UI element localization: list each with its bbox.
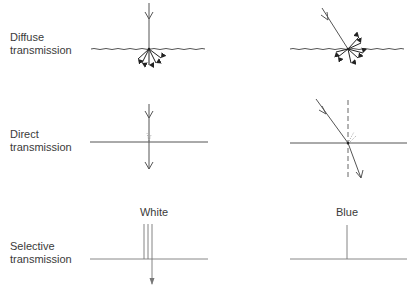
diffuse-normal-incidence bbox=[91, 3, 205, 65]
transmitted-arrowhead-icon bbox=[150, 278, 155, 285]
transmission-diagram bbox=[0, 0, 412, 294]
reflected-dotted-rays bbox=[349, 132, 357, 142]
diffuse-scattered-rays bbox=[138, 49, 161, 65]
refracted-ray bbox=[348, 143, 361, 178]
incident-arrowhead-icon bbox=[319, 106, 326, 114]
direct-normal-incidence bbox=[90, 104, 208, 169]
incident-ray bbox=[316, 99, 348, 143]
incident-ray bbox=[322, 8, 348, 49]
direct-oblique-refraction bbox=[290, 99, 407, 178]
selective-blue-light bbox=[290, 225, 407, 259]
diffuse-oblique-incidence bbox=[290, 8, 404, 63]
selective-white-light bbox=[90, 224, 208, 285]
